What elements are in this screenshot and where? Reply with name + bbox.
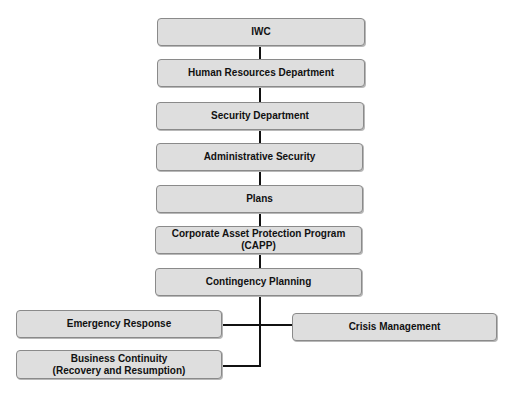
- node-label: Crisis Management: [349, 321, 441, 333]
- node-label: Security Department: [211, 110, 309, 122]
- node-label: Contingency Planning: [206, 276, 312, 288]
- node-label-line1: Business Continuity: [71, 353, 168, 365]
- node-human-resources: Human Resources Department: [157, 59, 365, 87]
- node-administrative-security: Administrative Security: [156, 143, 363, 171]
- node-label: Emergency Response: [67, 318, 172, 330]
- node-plans: Plans: [156, 185, 363, 213]
- node-label: Corporate Asset Protection Program (CAPP…: [156, 228, 361, 252]
- connector-business-continuity: [222, 365, 261, 367]
- node-capp: Corporate Asset Protection Program (CAPP…: [155, 226, 362, 254]
- node-contingency-planning: Contingency Planning: [155, 268, 362, 296]
- node-label-line2: (Recovery and Resumption): [53, 365, 186, 377]
- node-emergency-response: Emergency Response: [16, 310, 222, 338]
- node-security-department: Security Department: [156, 102, 364, 130]
- node-business-continuity: Business Continuity (Recovery and Resump…: [16, 350, 222, 379]
- node-label: Plans: [246, 193, 273, 205]
- node-label: Administrative Security: [204, 151, 316, 163]
- connector-emergency-crisis: [222, 324, 293, 326]
- node-iwc: IWC: [157, 18, 365, 46]
- node-label: IWC: [251, 26, 270, 38]
- node-label: Human Resources Department: [188, 67, 334, 79]
- node-crisis-management: Crisis Management: [292, 313, 497, 341]
